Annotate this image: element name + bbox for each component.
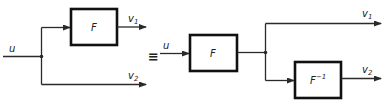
right-block-F-label: F bbox=[210, 48, 216, 59]
right-v2-label: v2 bbox=[362, 64, 373, 77]
left-block-F-label: F bbox=[91, 22, 97, 33]
block-diagram: u F v1 v2 ≡ u F v1 F−1 v2 bbox=[0, 0, 386, 103]
equivalence-symbol: ≡ bbox=[148, 49, 159, 64]
right-diagram: u F v1 F−1 v2 bbox=[160, 8, 381, 98]
right-v1-label: v1 bbox=[362, 8, 372, 21]
left-input-label: u bbox=[9, 43, 15, 54]
right-input-label: u bbox=[163, 40, 169, 51]
left-v1-label: v1 bbox=[128, 13, 138, 26]
left-v2-label: v2 bbox=[128, 70, 139, 83]
left-diagram: u F v1 v2 bbox=[3, 9, 146, 85]
